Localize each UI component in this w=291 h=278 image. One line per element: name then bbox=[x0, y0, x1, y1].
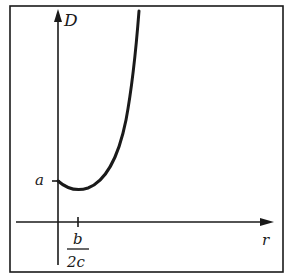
x-tick-fraction: b 2c bbox=[66, 230, 89, 271]
function-curve bbox=[58, 11, 139, 190]
x-axis-label: r bbox=[262, 231, 270, 249]
y-tick-label: a bbox=[35, 171, 44, 189]
diagram-frame bbox=[10, 6, 283, 272]
fraction-numerator: b bbox=[73, 230, 83, 248]
y-axis-arrow-icon bbox=[54, 9, 62, 22]
x-axis bbox=[16, 218, 274, 226]
diagram-canvas: D r a b 2c bbox=[0, 0, 291, 278]
y-axis-label: D bbox=[63, 10, 78, 30]
y-axis bbox=[54, 9, 62, 265]
fraction-denominator: 2c bbox=[66, 253, 86, 271]
x-axis-arrow-icon bbox=[260, 218, 274, 226]
